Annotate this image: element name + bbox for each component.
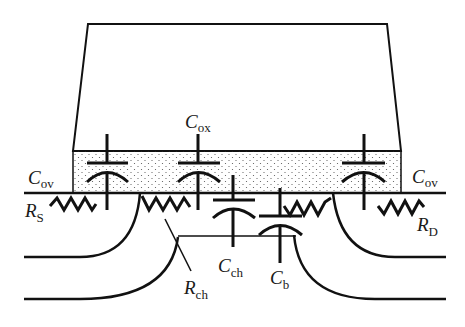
drain-junction-inner	[294, 235, 446, 299]
body-capacitor	[259, 188, 302, 263]
mosfet-diagram: Cox Cov Cov RS RD Cch Rch Cb	[0, 0, 465, 327]
gate	[73, 24, 401, 151]
channel-resistor	[142, 196, 190, 210]
drain-resistor	[378, 201, 424, 214]
label-cch: Cch	[218, 255, 243, 280]
source-resistor	[50, 198, 96, 210]
label-rs: RS	[24, 200, 44, 225]
gate-oxide	[73, 151, 401, 193]
label-cov-right: Cov	[412, 166, 438, 190]
label-cov-left: Cov	[28, 167, 54, 191]
label-rd: RD	[416, 214, 438, 239]
label-rch: Rch	[183, 277, 208, 302]
drain-channel-resistor	[284, 198, 331, 215]
label-cb: Cb	[270, 267, 289, 292]
source-junction-inner	[24, 237, 178, 299]
